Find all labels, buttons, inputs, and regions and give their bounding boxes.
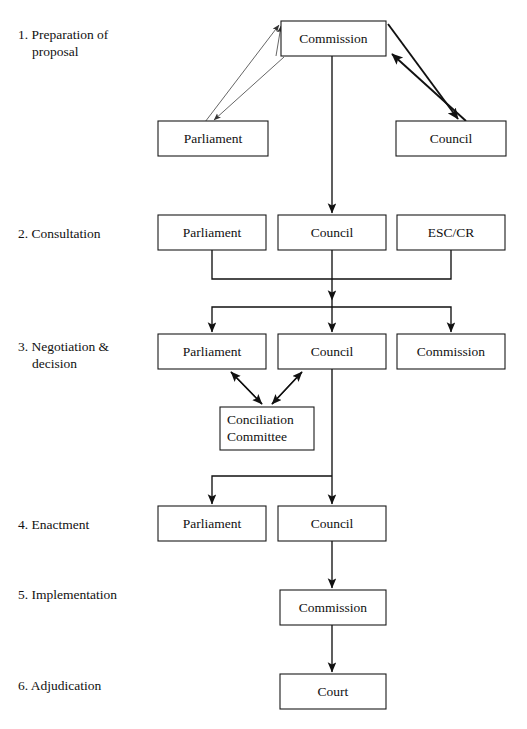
node-label: Council <box>311 225 354 240</box>
stage-label-group-5: 5. Implementation <box>18 587 117 602</box>
node-label: Parliament <box>183 516 242 531</box>
node-commission-stage5[interactable]: Commission <box>280 590 386 625</box>
stage-label-group-1: 1. Preparation of proposal <box>18 27 109 59</box>
node-label: Commission <box>299 600 368 615</box>
node-label: Commission <box>417 344 486 359</box>
stage-label-1-line1: 1. Preparation of <box>18 27 109 42</box>
node-label: Parliament <box>184 131 243 146</box>
stage-label-6-line1: 6. Adjudication <box>18 678 101 693</box>
stage-label-group-2: 2. Consultation <box>18 226 101 241</box>
stage-label-group-3: 3. Negotiation & decision <box>18 339 110 371</box>
stage-label-2-line1: 2. Consultation <box>18 226 101 241</box>
edge-commission-council <box>388 24 466 121</box>
node-label: Council <box>311 516 354 531</box>
node-parliament-stage1[interactable]: Parliament <box>158 121 268 156</box>
node-label: Parliament <box>183 225 242 240</box>
edge-council-conciliation <box>272 372 302 404</box>
node-label: Council <box>311 344 354 359</box>
stage-label-group-6: 6. Adjudication <box>18 678 101 693</box>
node-council-stage3[interactable]: Council <box>278 334 386 369</box>
stage-label-5-line1: 5. Implementation <box>18 587 117 602</box>
node-label: Commission <box>299 31 368 46</box>
node-label: Conciliation <box>227 412 294 427</box>
node-parliament-stage4[interactable]: Parliament <box>158 506 266 541</box>
edge-stage2-to-stage3-fork <box>212 300 451 332</box>
node-commission-stage3[interactable]: Commission <box>397 334 505 369</box>
node-label: ESC/CR <box>428 225 475 240</box>
edge-stage2-merge <box>212 250 451 300</box>
edge-parliament-conciliation <box>231 372 262 404</box>
node-label: Parliament <box>183 344 242 359</box>
node-label-line2: Committee <box>227 429 287 444</box>
node-council-stage1[interactable]: Council <box>396 121 506 156</box>
node-council-stage4[interactable]: Council <box>278 506 386 541</box>
edge-commission-parliament <box>205 25 284 122</box>
node-commission-stage1[interactable]: Commission <box>281 21 386 56</box>
node-parliament-stage2[interactable]: Parliament <box>158 215 266 250</box>
stage-label-3-line2: decision <box>32 356 77 371</box>
node-council-stage2[interactable]: Council <box>278 215 386 250</box>
node-label: Court <box>318 684 349 699</box>
node-conciliation-committee[interactable]: Conciliation Committee <box>220 407 314 450</box>
stage-label-3-line1: 3. Negotiation & <box>18 339 110 354</box>
stage-label-4-line1: 4. Enactment <box>18 517 89 532</box>
node-label: Council <box>430 131 473 146</box>
diagram-page: 1. Preparation of proposal 2. Consultati… <box>0 0 527 729</box>
legislative-process-diagram: 1. Preparation of proposal 2. Consultati… <box>0 0 527 729</box>
stage-label-group-4: 4. Enactment <box>18 517 89 532</box>
node-esccr-stage2[interactable]: ESC/CR <box>397 215 505 250</box>
node-parliament-stage3[interactable]: Parliament <box>158 334 266 369</box>
node-court-stage6[interactable]: Court <box>280 674 386 709</box>
stage-label-1-line2: proposal <box>32 44 79 59</box>
